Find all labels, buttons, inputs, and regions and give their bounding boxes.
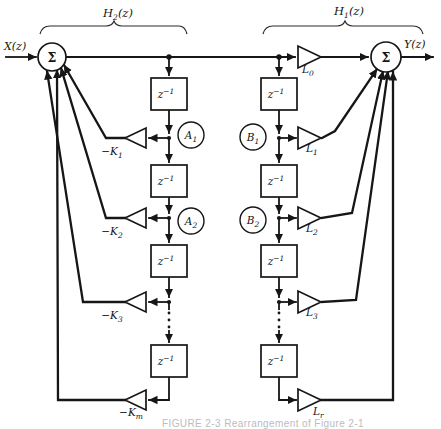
junction-dot: [167, 216, 171, 220]
ellipsis-dot: [278, 312, 281, 315]
ellipsis-dot: [168, 326, 171, 329]
input-label: X(z): [3, 40, 26, 53]
h1-section-label: H1(z): [333, 4, 364, 20]
ellipsis-dot: [278, 326, 281, 329]
ellipsis-dot: [168, 319, 171, 322]
junction-dot: [167, 300, 171, 304]
junction-dot: [277, 136, 281, 140]
ellipsis-dot: [168, 312, 171, 315]
ellipsis-dot: [278, 319, 281, 322]
figure-caption: FIGURE 2-3 Rearrangement of Figure 2-1: [162, 418, 364, 429]
junction-dot: [167, 136, 171, 140]
filter-block-diagram: X(z) Y(z) H2(z) H1(z) Σ Σ z−1 z−1 z−1 z−…: [0, 0, 441, 429]
junction-dot: [277, 300, 281, 304]
junction-dot: [277, 216, 281, 220]
output-label: Y(z): [404, 38, 426, 51]
input-sum-symbol: Σ: [48, 50, 57, 65]
output-sum-symbol: Σ: [382, 50, 391, 65]
junction-dot: [276, 54, 281, 59]
junction-dot: [166, 54, 171, 59]
h2-section-label: H2(z): [102, 6, 133, 22]
